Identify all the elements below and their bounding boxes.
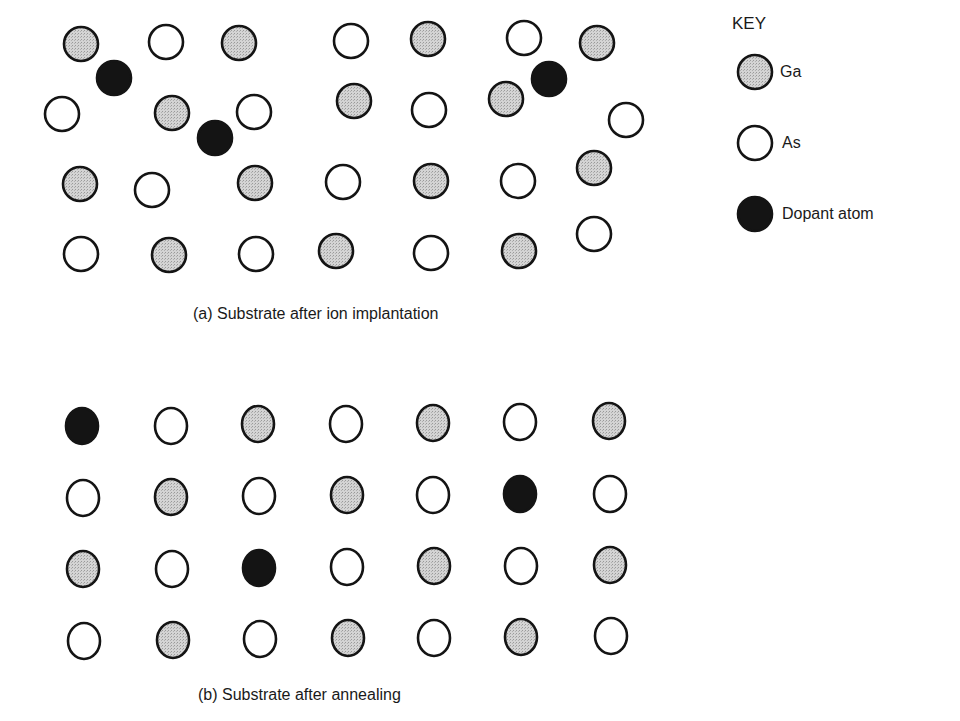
as-atom-icon xyxy=(243,478,275,514)
as-atom-icon xyxy=(507,21,541,55)
as-atom-icon xyxy=(417,477,449,513)
as-atom-icon xyxy=(501,164,535,198)
ga-atom-icon xyxy=(411,22,445,56)
ga-atom-icon xyxy=(414,164,448,198)
ga-atom-icon xyxy=(157,622,189,658)
as-atom-icon xyxy=(244,621,276,657)
ga-atom-icon xyxy=(417,405,449,441)
as-atom-icon xyxy=(156,551,188,587)
ga-atom-icon xyxy=(64,27,98,61)
ga-atom-icon xyxy=(222,26,256,60)
as-atom-icon xyxy=(330,406,362,442)
ga-atom-icon xyxy=(155,96,189,130)
key-label-dopant: Dopant atom xyxy=(782,205,874,223)
dopant-atom-icon xyxy=(198,121,232,155)
panel-b-caption: (b) Substrate after annealing xyxy=(198,686,401,704)
as-atom-icon xyxy=(326,165,360,199)
as-atom-icon xyxy=(45,97,79,131)
as-atom-icon xyxy=(67,480,99,516)
ga-atom-icon xyxy=(67,551,99,587)
as-atom-icon xyxy=(609,103,643,137)
as-atom-icon xyxy=(68,623,100,659)
dopant-atom-icon xyxy=(738,197,772,231)
ga-atom-icon xyxy=(505,619,537,655)
as-atom-icon xyxy=(504,404,536,440)
ga-atom-icon xyxy=(331,477,363,513)
key-label-ga: Ga xyxy=(780,63,801,81)
ga-atom-icon xyxy=(594,547,626,583)
atom-lattice-diagram xyxy=(0,0,960,721)
ga-atom-icon xyxy=(418,548,450,584)
ga-atom-icon xyxy=(152,238,186,272)
ga-atom-icon xyxy=(238,166,272,200)
as-atom-icon xyxy=(149,25,183,59)
dopant-atom-icon xyxy=(243,550,275,586)
panel-b-lattice xyxy=(66,403,627,659)
ga-atom-icon xyxy=(337,84,371,118)
ga-atom-icon xyxy=(502,234,536,268)
ga-atom-icon xyxy=(580,26,614,60)
as-atom-icon xyxy=(412,93,446,127)
as-atom-icon xyxy=(595,618,627,654)
as-atom-icon xyxy=(418,620,450,656)
ga-atom-icon xyxy=(63,167,97,201)
as-atom-icon xyxy=(155,408,187,444)
dopant-atom-icon xyxy=(532,62,566,96)
panel-a-lattice xyxy=(45,21,643,272)
as-atom-icon xyxy=(237,95,271,129)
ga-atom-icon xyxy=(593,403,625,439)
as-atom-icon xyxy=(135,173,169,207)
key-title: KEY xyxy=(732,14,766,34)
as-atom-icon xyxy=(738,126,772,160)
ga-atom-icon xyxy=(242,406,274,442)
ga-atom-icon xyxy=(319,234,353,268)
dopant-atom-icon xyxy=(66,408,98,444)
dopant-atom-icon xyxy=(97,61,131,95)
ga-atom-icon xyxy=(577,151,611,185)
key-legend-icons xyxy=(738,55,772,231)
ga-atom-icon xyxy=(489,82,523,116)
ga-atom-icon xyxy=(332,620,364,656)
key-label-as: As xyxy=(782,134,801,152)
dopant-atom-icon xyxy=(504,476,536,512)
as-atom-icon xyxy=(414,236,448,270)
as-atom-icon xyxy=(594,476,626,512)
ga-atom-icon xyxy=(155,479,187,515)
ga-atom-icon xyxy=(738,55,772,89)
as-atom-icon xyxy=(239,237,273,271)
as-atom-icon xyxy=(505,548,537,584)
as-atom-icon xyxy=(334,24,368,58)
as-atom-icon xyxy=(577,217,611,251)
panel-a-caption: (a) Substrate after ion implantation xyxy=(193,305,438,323)
as-atom-icon xyxy=(331,549,363,585)
as-atom-icon xyxy=(64,237,98,271)
